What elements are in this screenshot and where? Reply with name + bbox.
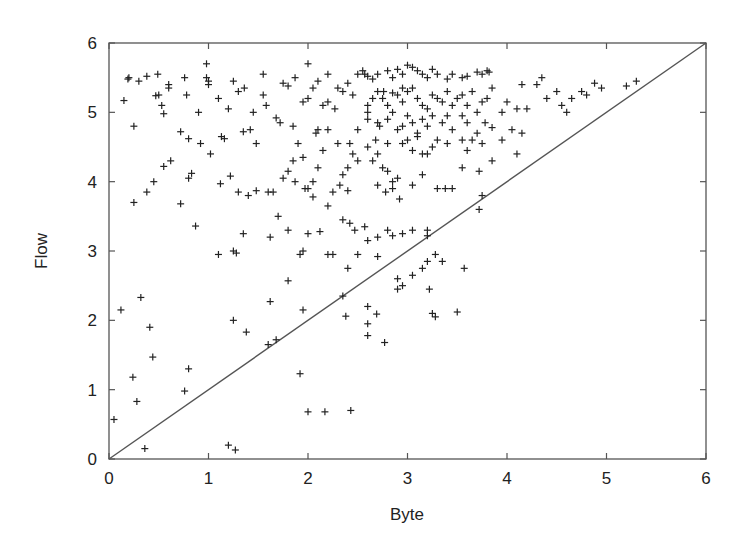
plus-marker	[344, 80, 351, 87]
plus-marker	[305, 408, 312, 415]
plus-marker	[409, 85, 416, 92]
plus-marker	[374, 88, 381, 95]
plus-marker	[124, 76, 131, 83]
x-tick-label: 1	[204, 469, 213, 488]
plus-marker	[292, 178, 299, 185]
plus-marker	[404, 88, 411, 95]
plus-marker	[177, 200, 184, 207]
plus-marker	[192, 223, 199, 230]
plus-marker	[508, 126, 515, 133]
plus-marker	[482, 119, 489, 126]
plus-marker	[429, 144, 436, 151]
plus-marker	[369, 157, 376, 164]
y-axis-title: Flow	[32, 232, 51, 269]
plus-marker	[444, 76, 451, 83]
plus-marker	[120, 97, 127, 104]
plus-marker	[165, 85, 172, 92]
y-tick-label: 2	[88, 311, 97, 330]
plus-marker	[133, 398, 140, 405]
plus-marker	[464, 147, 471, 154]
plus-marker	[442, 185, 449, 192]
plus-marker	[394, 175, 401, 182]
plus-marker	[177, 128, 184, 135]
plus-marker	[449, 102, 456, 109]
plus-marker	[300, 306, 307, 313]
plus-marker	[439, 258, 446, 265]
plus-marker	[354, 251, 361, 258]
plus-marker	[399, 123, 406, 130]
plus-marker	[474, 130, 481, 137]
plus-marker	[424, 74, 431, 81]
plus-marker	[533, 81, 540, 88]
plus-marker	[227, 173, 234, 180]
plus-marker	[504, 98, 511, 105]
plus-marker	[143, 73, 150, 80]
plus-marker	[464, 73, 471, 80]
plus-marker	[389, 185, 396, 192]
plus-marker	[379, 95, 386, 102]
plus-marker	[205, 81, 212, 88]
plus-marker	[396, 196, 403, 203]
plus-marker	[384, 140, 391, 147]
plus-marker	[454, 95, 461, 102]
plus-marker	[321, 408, 328, 415]
plus-marker	[300, 98, 307, 105]
plus-marker	[489, 85, 496, 92]
plus-marker	[324, 126, 331, 133]
plus-marker	[344, 164, 351, 171]
plus-marker	[339, 88, 346, 95]
plus-marker	[235, 189, 242, 196]
plus-marker	[324, 251, 331, 258]
plus-marker	[364, 102, 371, 109]
plus-marker	[518, 81, 525, 88]
plus-marker	[384, 102, 391, 109]
plus-marker	[394, 66, 401, 73]
y-tick-label: 4	[88, 173, 97, 192]
plus-marker	[331, 105, 338, 112]
plus-marker	[434, 71, 441, 78]
plus-marker	[384, 227, 391, 234]
plus-marker	[444, 112, 451, 119]
plus-marker	[459, 92, 466, 99]
plus-marker	[489, 157, 496, 164]
plus-marker	[250, 109, 257, 116]
plus-marker	[598, 85, 605, 92]
plus-marker	[319, 147, 326, 154]
plus-marker	[454, 309, 461, 316]
plus-marker	[409, 182, 416, 189]
plus-marker	[354, 71, 361, 78]
plus-marker	[633, 78, 640, 85]
plus-marker	[364, 116, 371, 123]
plus-marker	[399, 85, 406, 92]
plus-marker	[394, 286, 401, 293]
y-tick-label: 1	[88, 381, 97, 400]
plus-marker	[243, 329, 250, 336]
plus-marker	[429, 92, 436, 99]
plus-marker	[404, 112, 411, 119]
plus-marker	[373, 311, 380, 318]
plus-marker	[623, 82, 630, 89]
plus-marker	[591, 80, 598, 87]
plus-marker	[280, 175, 287, 182]
plus-marker	[292, 74, 299, 81]
plus-marker	[183, 92, 190, 99]
plus-marker	[297, 370, 304, 377]
plus-marker	[414, 133, 421, 140]
plus-marker	[361, 223, 368, 230]
y-tick-label: 0	[88, 450, 97, 469]
plus-marker	[309, 85, 316, 92]
plus-marker	[374, 234, 381, 241]
plus-marker	[354, 126, 361, 133]
plus-marker	[444, 140, 451, 147]
x-tick-label: 2	[303, 469, 312, 488]
plus-marker	[499, 109, 506, 116]
plus-marker	[434, 95, 441, 102]
plus-marker	[346, 140, 353, 147]
plus-marker	[419, 116, 426, 123]
plus-marker	[424, 258, 431, 265]
plus-marker	[364, 332, 371, 339]
y-tick-label: 5	[88, 103, 97, 122]
plus-marker	[380, 88, 387, 95]
plus-marker	[479, 140, 486, 147]
plus-marker	[309, 178, 316, 185]
